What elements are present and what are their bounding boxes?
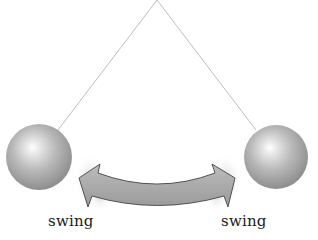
left-string: [58, 0, 157, 130]
right-string: [157, 0, 256, 130]
pendulum-diagram: swing swing: [0, 0, 318, 240]
left-pendulum-bob: [6, 124, 72, 190]
swing-label-left: swing: [48, 214, 94, 229]
pendulum-strings: [58, 0, 256, 130]
swing-label-right: swing: [221, 214, 267, 229]
right-pendulum-bob: [244, 125, 308, 189]
